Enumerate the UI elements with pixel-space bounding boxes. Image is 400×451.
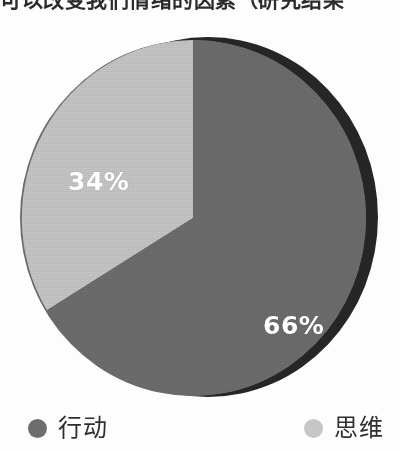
legend-dot-icon-thinking [304,419,323,438]
legend-label-action: 行动 [58,416,108,440]
pie-chart-graphic: 34% 66% [20,36,378,398]
legend-label-thinking: 思维 [334,416,384,440]
pie-label-action: 66% [263,311,324,340]
chart-legend: 行动 思维 [0,412,400,451]
pie-disc [20,40,366,396]
legend-item-thinking[interactable]: 思维 [304,416,384,440]
legend-item-action[interactable]: 行动 [28,416,108,440]
legend-dot-icon-action [28,419,47,438]
pie-chart: 34% 66% [0,22,400,407]
pie-label-thinking: 34% [68,167,129,196]
pie-slices [20,40,366,396]
page-heading-clipped: 可以改变我们情绪的因素（研究结果 [0,0,400,13]
